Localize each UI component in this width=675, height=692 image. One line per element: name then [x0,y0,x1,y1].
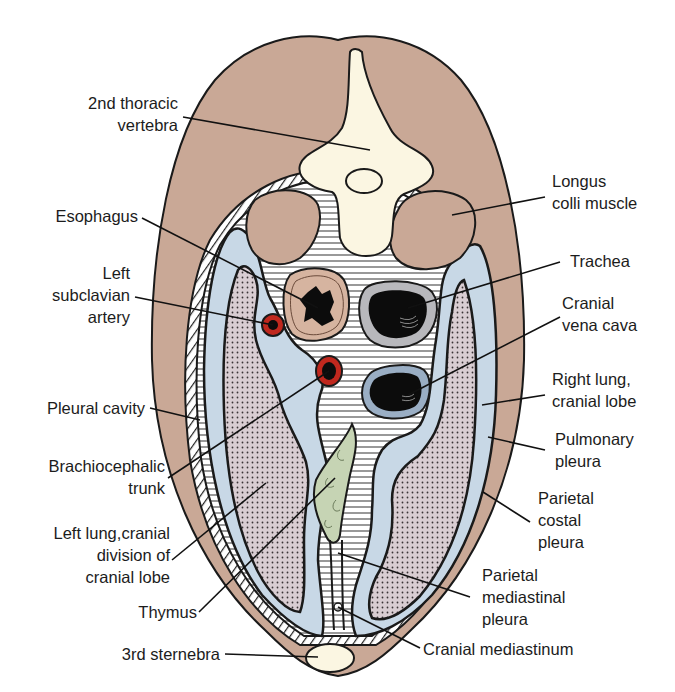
label-longus-colli-muscle: Longus colli muscle [552,170,637,214]
sternebra [306,644,354,672]
label-trachea: Trachea [570,250,630,272]
label-parietal-mediastinal-pleura: Parietal mediastinal pleura [482,564,565,630]
label-cranial-vena-cava: Cranial vena cava [562,292,637,336]
label-2nd-thoracic-vertebra: 2nd thoracic vertebra [55,92,178,136]
label-parietal-costal-pleura: Parietal costal pleura [538,487,594,553]
label-cranial-mediastinum: Cranial mediastinum [423,638,573,660]
label-esophagus: Esophagus [30,205,138,227]
trachea [359,281,437,347]
cranial-vena-cava [362,365,430,418]
label-3rd-sternebra: 3rd sternebra [60,643,220,665]
label-pleural-cavity: Pleural cavity [10,397,145,419]
label-pulmonary-pleura: Pulmonary pleura [555,428,634,472]
label-right-lung-cranial-lobe: Right lung, cranial lobe [552,368,636,412]
label-thymus: Thymus [100,601,197,623]
label-left-lung-cranial-division: Left lung,cranial division of cranial lo… [10,522,170,588]
label-left-subclavian-artery: Left subclavian artery [20,262,130,328]
label-brachiocephalic-trunk: Brachiocephalic trunk [10,455,165,499]
esophagus [283,268,349,340]
